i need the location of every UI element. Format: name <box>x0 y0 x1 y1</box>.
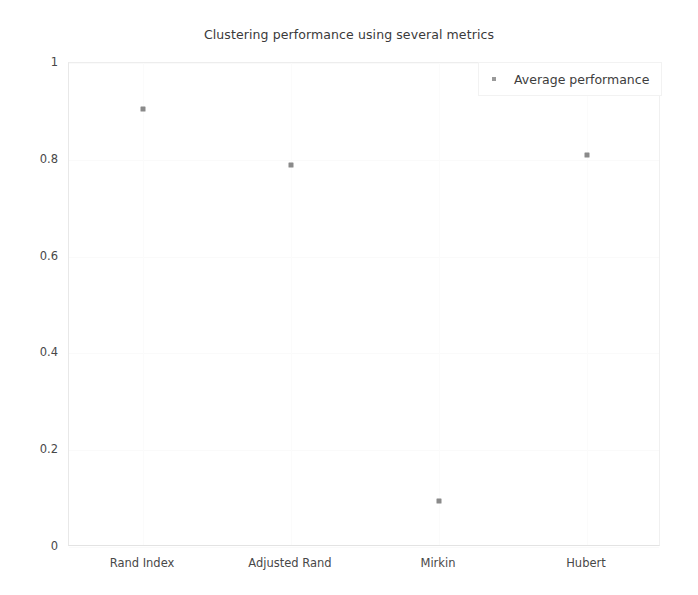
gridline-vertical <box>143 63 144 545</box>
data-point <box>141 106 146 111</box>
y-axis-tick-label: 1 <box>0 55 58 69</box>
gridline-vertical <box>439 63 440 545</box>
x-axis-tick-label: Mirkin <box>421 556 456 570</box>
y-axis-tick-label: 0.4 <box>0 345 58 359</box>
y-axis-tick-label: 0 <box>0 539 58 553</box>
legend-label: Average performance <box>514 72 649 87</box>
gridline-horizontal <box>69 257 659 258</box>
legend: Average performance <box>478 62 662 96</box>
y-axis-tick-label: 0.6 <box>0 249 58 263</box>
data-point <box>437 499 442 504</box>
plot-area <box>68 62 660 546</box>
chart-figure: Clustering performance using several met… <box>0 0 698 595</box>
y-axis-tick-label: 0.8 <box>0 152 58 166</box>
gridline-horizontal <box>69 547 659 548</box>
chart-title: Clustering performance using several met… <box>0 27 698 42</box>
gridline-vertical <box>291 63 292 545</box>
gridline-horizontal <box>69 450 659 451</box>
data-point <box>585 152 590 157</box>
gridline-horizontal <box>69 353 659 354</box>
x-axis-tick-label: Hubert <box>566 556 606 570</box>
legend-marker-icon <box>492 77 496 81</box>
x-axis-tick-label: Rand Index <box>110 556 175 570</box>
gridline-horizontal <box>69 160 659 161</box>
gridline-vertical <box>587 63 588 545</box>
data-point <box>289 162 294 167</box>
y-axis-tick-label: 0.2 <box>0 442 58 456</box>
x-axis-tick-label: Adjusted Rand <box>248 556 331 570</box>
